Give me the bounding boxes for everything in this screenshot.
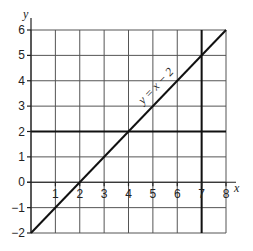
x-axis-label: x (233, 181, 240, 195)
y-tick-label: −1 (11, 201, 25, 215)
y-tick-label: 3 (18, 99, 25, 113)
x-tick-label: 7 (198, 187, 205, 201)
y-tick-label: 0 (18, 175, 25, 189)
x-tick-label: 8 (223, 187, 230, 201)
y-tick-label: 1 (18, 150, 25, 164)
y-tick-label: −2 (11, 226, 25, 240)
y-tick-label: 4 (18, 74, 25, 88)
x-tick-label: 2 (76, 187, 83, 201)
x-tick-label: 4 (125, 187, 132, 201)
x-tick-label: 6 (174, 187, 181, 201)
y-tick-label: 5 (18, 48, 25, 62)
y-tick-label: 2 (18, 125, 25, 139)
x-tick-label: 1 (52, 187, 59, 201)
y-axis-label: y (22, 7, 29, 21)
y-tick-label: 6 (18, 23, 25, 37)
x-tick-label: 5 (150, 187, 157, 201)
chart: −2−1012345612345678 x y y = x − 2 (0, 0, 253, 251)
x-tick-label: 3 (101, 187, 108, 201)
series-label: y = x − 2 (134, 65, 176, 108)
